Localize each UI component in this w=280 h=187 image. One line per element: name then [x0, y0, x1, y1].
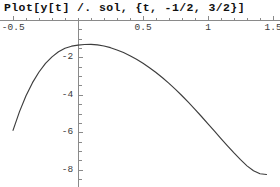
- y-tick-label: -2: [62, 52, 73, 62]
- curve-layer: [13, 44, 267, 174]
- x-tick-label: 1.5: [265, 23, 280, 33]
- x-tick-label: -0.5: [2, 23, 25, 33]
- x-tick-label: 0.5: [135, 23, 152, 33]
- y-tick-label: -4: [62, 90, 73, 100]
- input-cell-expression: Plot[y[t] /. sol, {t, -1/2, 3/2}]: [4, 0, 245, 15]
- axes-layer: [0, 16, 280, 187]
- notebook-output: Plot[y[t] /. sol, {t, -1/2, 3/2}] -0.50.…: [0, 0, 280, 187]
- plot-graphics: [0, 15, 280, 187]
- y-tick-label: -8: [62, 165, 73, 175]
- x-tick-label: 1: [205, 23, 211, 33]
- plot-canvas: -0.50.511.5-2-4-6-8: [0, 15, 280, 187]
- y-tick-label: -6: [62, 127, 73, 137]
- data-curve: [13, 44, 267, 174]
